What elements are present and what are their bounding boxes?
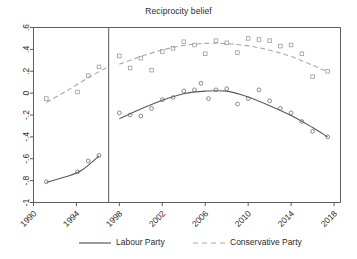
y-tick-label: .4 (21, 46, 31, 53)
fit-line (119, 91, 327, 137)
y-tick-label: -.6 (21, 154, 31, 164)
data-point-marker (86, 159, 90, 163)
x-tick-label: 2014 (276, 208, 297, 229)
fit-line (46, 156, 99, 182)
data-point-marker (236, 51, 240, 55)
data-point-marker (246, 37, 250, 41)
data-point-marker (311, 130, 315, 134)
data-point-marker (150, 68, 154, 72)
fit-line (46, 66, 108, 102)
data-point-marker (97, 65, 101, 69)
x-tick-label: 1994 (61, 208, 82, 229)
data-point-marker (207, 97, 211, 101)
x-tick-label: 1998 (104, 208, 125, 229)
data-point-marker (236, 102, 240, 106)
data-point-marker (45, 97, 49, 101)
data-point-marker (300, 52, 304, 56)
plot-area: .6.4.20-.2-.4-.6-.8-11990199419982002200… (0, 0, 357, 259)
data-point-marker (289, 111, 293, 115)
data-point-marker (311, 75, 315, 79)
data-point-marker (182, 89, 186, 93)
legend-label-labour: Labour Party (116, 237, 165, 247)
data-point-marker (150, 107, 154, 111)
data-point-marker (278, 107, 282, 111)
y-tick-label: -1 (21, 198, 31, 206)
plot-frame (34, 28, 341, 203)
y-tick-label: -.4 (21, 132, 31, 142)
data-point-marker (279, 44, 283, 48)
data-point-marker (268, 99, 272, 103)
data-point-marker (182, 40, 186, 44)
data-point-marker (203, 52, 207, 56)
data-point-marker (76, 90, 80, 94)
data-point-marker (193, 88, 197, 92)
x-tick-label: 2006 (190, 208, 211, 229)
data-point-marker (97, 154, 101, 158)
legend-label-conservative: Conservative Party (230, 237, 303, 247)
x-tick-label: 2010 (233, 208, 254, 229)
x-tick-label: 2002 (147, 208, 168, 229)
x-tick-label: 1990 (18, 208, 39, 229)
x-tick-label: 2018 (319, 208, 340, 229)
data-point-marker (128, 66, 132, 70)
data-point-marker (225, 87, 229, 91)
y-tick-label: .2 (21, 67, 31, 74)
data-point-marker (257, 38, 261, 42)
chart-figure: Reciprocity belief .6.4.20-.2-.4-.6-.8-1… (0, 0, 357, 259)
data-point-marker (289, 43, 293, 47)
y-tick-label: -.2 (21, 110, 31, 120)
y-tick-label: -.8 (21, 175, 31, 185)
data-point-marker (326, 69, 330, 73)
y-tick-label: .6 (21, 24, 31, 31)
data-point-marker (268, 39, 272, 43)
fit-line (119, 43, 327, 72)
chart-legend: Labour PartyConservative Party (79, 237, 303, 247)
data-point-marker (193, 43, 197, 47)
y-tick-label: 0 (21, 90, 31, 95)
data-point-marker (257, 88, 261, 92)
data-point-marker (199, 81, 203, 85)
data-point-marker (214, 39, 218, 43)
data-point-marker (118, 54, 122, 58)
data-point-marker (139, 56, 143, 60)
data-point-marker (117, 111, 121, 115)
data-point-marker (139, 114, 143, 118)
series-labour (44, 81, 329, 183)
